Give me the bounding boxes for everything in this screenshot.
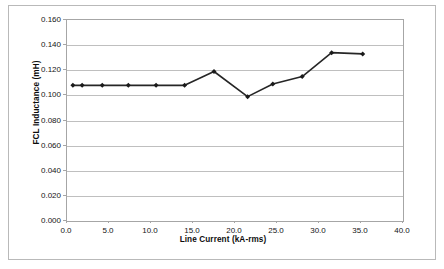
y-axis-tick-label: 0.020: [15, 190, 61, 199]
x-axis-tick-label: 0.0: [46, 226, 86, 235]
y-axis-tick-label: 0.120: [15, 65, 61, 74]
data-point-marker: [100, 83, 105, 88]
data-point-marker: [154, 83, 159, 88]
y-axis-tick-label: 0.040: [15, 165, 61, 174]
y-axis-tick-label: 0.000: [15, 216, 61, 225]
data-point-marker: [126, 83, 131, 88]
y-axis-tick-label: 0.140: [15, 40, 61, 49]
x-axis-tick-label: 25.0: [256, 226, 296, 235]
x-axis-tick-label: 35.0: [340, 226, 380, 235]
series-line: [73, 53, 363, 97]
data-point-marker: [182, 83, 187, 88]
data-point-marker: [360, 51, 365, 56]
y-axis-tick-label: 0.080: [15, 115, 61, 124]
plot-area: [66, 19, 404, 222]
x-axis-title: Line Current (kA-rms): [9, 235, 437, 244]
y-axis-tick-label: 0.060: [15, 140, 61, 149]
x-axis-tick-label: 15.0: [172, 226, 212, 235]
x-axis-tick-label: 5.0: [88, 226, 128, 235]
x-axis-tick-label: 10.0: [130, 226, 170, 235]
data-point-marker: [70, 83, 75, 88]
chart-frame: FCL Inductance (mH) Line Current (kA-rms…: [8, 5, 436, 260]
y-axis-tick-label: 0.100: [15, 90, 61, 99]
x-axis-tick-label: 40.0: [382, 226, 422, 235]
data-point-marker: [80, 83, 85, 88]
x-axis-tick-label: 20.0: [214, 226, 254, 235]
series-line-chart: [67, 20, 403, 221]
y-axis-tick-label: 0.160: [15, 15, 61, 24]
x-axis-tick-label: 30.0: [298, 226, 338, 235]
